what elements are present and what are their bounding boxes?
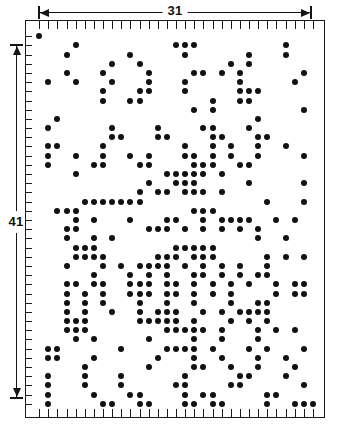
data-point (210, 107, 216, 113)
y-axis-tick (26, 376, 32, 377)
data-point (255, 88, 261, 94)
data-point (264, 300, 270, 306)
data-point (100, 88, 106, 94)
x-axis-tick-bottom (76, 409, 77, 417)
y-axis-tick (26, 385, 32, 386)
x-axis-tick-bottom (313, 409, 314, 417)
data-point (164, 254, 170, 260)
data-point (237, 217, 243, 223)
y-axis-tick (26, 101, 32, 102)
data-point (118, 263, 124, 269)
data-point (173, 346, 179, 352)
data-point (91, 199, 97, 205)
data-point (73, 336, 79, 342)
x-axis-tick-bottom (149, 409, 150, 417)
data-point (301, 199, 307, 205)
y-axis-tick (26, 202, 32, 203)
data-point (182, 143, 188, 149)
data-point (164, 226, 170, 232)
data-point (246, 346, 252, 352)
data-point (219, 134, 225, 140)
data-point (164, 291, 170, 297)
data-point (155, 254, 161, 260)
data-point (173, 42, 179, 48)
data-point (237, 98, 243, 104)
data-point (292, 327, 298, 333)
data-point (237, 162, 243, 168)
y-axis-tick (26, 294, 32, 295)
arrowhead-up-icon (13, 46, 21, 55)
data-point (191, 318, 197, 324)
data-point (200, 226, 206, 232)
y-axis-tick (26, 349, 32, 350)
data-point (45, 79, 51, 85)
arrowhead-down-icon (13, 388, 21, 397)
x-axis-tick-top (267, 21, 268, 29)
y-axis-tick (26, 128, 32, 129)
x-axis-tick-top (185, 21, 186, 29)
data-point (127, 392, 133, 398)
data-point (191, 153, 197, 159)
data-point (255, 226, 261, 232)
arrowhead-right-icon (301, 9, 310, 17)
y-axis-tick (26, 339, 32, 340)
data-point (301, 180, 307, 186)
data-point (118, 134, 124, 140)
data-point (237, 226, 243, 232)
y-axis-tick (26, 284, 32, 285)
data-point (146, 336, 152, 342)
data-point (91, 336, 97, 342)
data-point (246, 180, 252, 186)
y-axis-tick (26, 192, 32, 193)
data-point (200, 162, 206, 168)
data-point (191, 327, 197, 333)
data-point (255, 364, 261, 370)
data-point (45, 382, 51, 388)
data-point (191, 171, 197, 177)
x-axis-tick-top (103, 21, 104, 29)
data-point (54, 143, 60, 149)
data-point (127, 291, 133, 297)
data-point (292, 364, 298, 370)
data-point (45, 125, 51, 131)
data-point (301, 291, 307, 297)
data-point (182, 79, 188, 85)
data-point (100, 401, 106, 407)
data-point (146, 162, 152, 168)
data-point (146, 88, 152, 94)
data-point (255, 116, 261, 122)
data-point (219, 189, 225, 195)
data-point (155, 134, 161, 140)
x-axis-tick-top (249, 21, 250, 29)
data-point (73, 208, 79, 214)
data-point (246, 309, 252, 315)
data-point (164, 171, 170, 177)
x-axis-tick-bottom (57, 409, 58, 417)
y-axis-tick (26, 146, 32, 147)
data-point (182, 180, 188, 186)
y-axis-tick (26, 64, 32, 65)
data-point (146, 70, 152, 76)
x-axis-tick-top (258, 21, 259, 29)
data-point (191, 208, 197, 214)
data-point (237, 373, 243, 379)
data-point (100, 143, 106, 149)
data-point (283, 235, 289, 241)
data-point (237, 272, 243, 278)
data-point (82, 309, 88, 315)
data-point (155, 318, 161, 324)
data-point (228, 143, 234, 149)
data-point (182, 42, 188, 48)
data-point (182, 327, 188, 333)
data-point (210, 153, 216, 159)
data-point (191, 291, 197, 297)
dot-pattern-figure: 31 41 (0, 0, 341, 435)
x-axis-tick-top (85, 21, 86, 29)
y-axis-tick (26, 156, 32, 157)
data-point (155, 263, 161, 269)
data-point (255, 300, 261, 306)
x-axis-tick-bottom (276, 409, 277, 417)
data-point (191, 245, 197, 251)
data-point (264, 272, 270, 278)
y-axis-tick (26, 321, 32, 322)
